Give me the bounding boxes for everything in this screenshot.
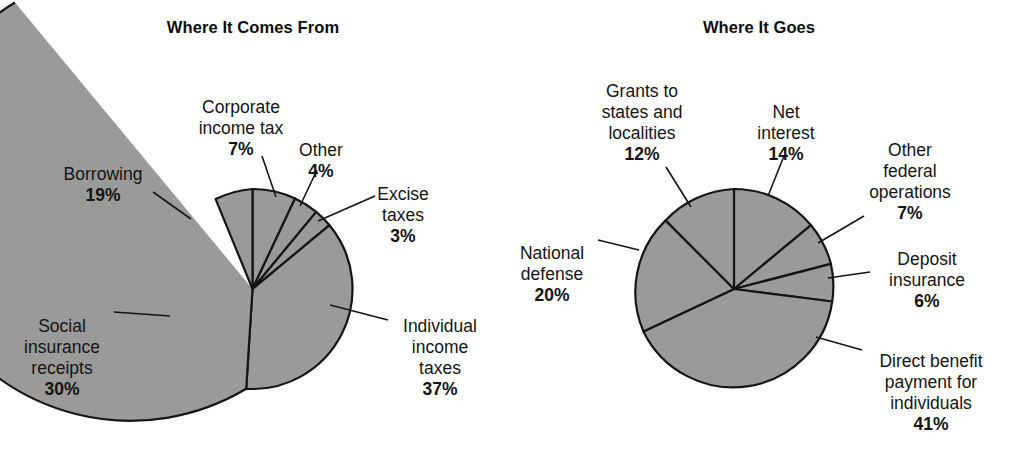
- pie-label-other-federal-operations-text: Other federal operations: [869, 140, 951, 202]
- pie-label-other-text: Other: [299, 140, 343, 160]
- pie-label-national-defense: National defense 20%: [506, 222, 598, 327]
- leader-line-national-defense: [598, 240, 639, 250]
- leader-line-deposit-insurance: [828, 272, 870, 278]
- pie-label-other-pct: 4%: [288, 161, 354, 182]
- pie-label-deposit-insurance: Deposit insurance 6%: [869, 228, 985, 333]
- pie-label-deposit-insurance-text: Deposit insurance: [889, 249, 965, 290]
- pie-label-individual-income-taxes: Individual income taxes 37%: [385, 295, 495, 421]
- pie-label-corporate-income-tax: Corporate income tax 7%: [176, 76, 306, 181]
- pie-label-corporate-income-tax-text: Corporate income tax: [199, 97, 284, 138]
- pie-label-individual-income-taxes-pct: 37%: [385, 379, 495, 400]
- pie-label-other-federal-operations-pct: 7%: [846, 203, 974, 224]
- pie-label-other: Other 4%: [288, 119, 354, 203]
- pie-label-social-insurance-receipts-pct: 30%: [8, 379, 116, 400]
- pie-label-borrowing: Borrowing 19%: [48, 143, 158, 227]
- pie-label-direct-benefit-payment: Direct benefit payment for individuals 4…: [856, 330, 1006, 453]
- pie-label-borrowing-pct: 19%: [48, 185, 158, 206]
- pie-label-grants-to-states: Grants to states and localities 12%: [584, 60, 700, 186]
- pie-label-excise-taxes-pct: 3%: [365, 226, 441, 247]
- pie-label-corporate-income-tax-pct: 7%: [176, 139, 306, 160]
- pie-label-grants-to-states-pct: 12%: [584, 144, 700, 165]
- pie-label-net-interest-pct: 14%: [743, 144, 829, 165]
- pie-label-net-interest-text: Net interest: [757, 102, 814, 143]
- pie-slices: [635, 189, 833, 387]
- pie-label-net-interest: Net interest 14%: [743, 81, 829, 186]
- pie-label-deposit-insurance-pct: 6%: [869, 291, 985, 312]
- pie-label-social-insurance-receipts: Social insurance receipts 30%: [8, 295, 116, 421]
- pie-label-excise-taxes-text: Excise taxes: [377, 184, 429, 225]
- chart-panel-where-it-comes-from: Where It Comes From Corporate inco: [0, 0, 506, 453]
- pie-label-excise-taxes: Excise taxes 3%: [365, 163, 441, 268]
- pie-label-borrowing-text: Borrowing: [64, 164, 143, 184]
- pie-label-national-defense-text: National defense: [520, 243, 584, 284]
- pie-label-direct-benefit-payment-pct: 41%: [856, 414, 1006, 435]
- pie-label-social-insurance-receipts-text: Social insurance receipts: [24, 316, 100, 378]
- pie-label-direct-benefit-payment-text: Direct benefit payment for individuals: [879, 351, 982, 413]
- chart-panel-where-it-goes: Where It Goes Grants to states and: [506, 0, 1012, 453]
- pie-label-national-defense-pct: 20%: [506, 285, 598, 306]
- pie-label-individual-income-taxes-text: Individual income taxes: [403, 316, 477, 378]
- pie-label-other-federal-operations: Other federal operations 7%: [846, 119, 974, 245]
- pie-label-grants-to-states-text: Grants to states and localities: [602, 81, 683, 143]
